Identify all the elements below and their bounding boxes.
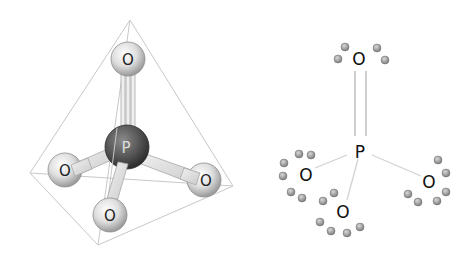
single-bond-right bbox=[372, 155, 421, 176]
svg-text:O: O bbox=[200, 172, 212, 190]
lewis-oxygen-right: O bbox=[404, 156, 450, 206]
single-bond-left bbox=[315, 155, 347, 168]
svg-text:O: O bbox=[122, 51, 134, 69]
phosphate-diagram: O P O O O bbox=[0, 0, 471, 259]
svg-text:O: O bbox=[352, 49, 365, 69]
lewis-oxygen-top: O bbox=[334, 43, 389, 69]
oxygen-atom-left-3d: O bbox=[48, 153, 92, 187]
lewis-phosphorus: P bbox=[355, 142, 365, 162]
phosphorus-atom-3d: P bbox=[105, 125, 149, 169]
lewis-oxygen-bottom: O bbox=[316, 189, 364, 237]
svg-text:P: P bbox=[121, 139, 130, 157]
svg-text:O: O bbox=[299, 165, 312, 185]
svg-text:O: O bbox=[59, 162, 71, 180]
oxygen-atom-top-3d: O bbox=[111, 42, 145, 76]
double-bond-3d bbox=[121, 70, 135, 132]
svg-text:O: O bbox=[336, 202, 349, 222]
svg-text:O: O bbox=[422, 172, 435, 192]
model-3d: O P O O O bbox=[30, 20, 233, 245]
oxygen-atom-bottom-3d: O bbox=[93, 198, 127, 232]
svg-text:O: O bbox=[104, 207, 116, 225]
lewis-structure: O P O O O bbox=[279, 43, 450, 237]
lewis-oxygen-left: O bbox=[279, 150, 315, 202]
lewis-bonds bbox=[315, 71, 421, 200]
single-bond-bottom bbox=[347, 159, 358, 200]
